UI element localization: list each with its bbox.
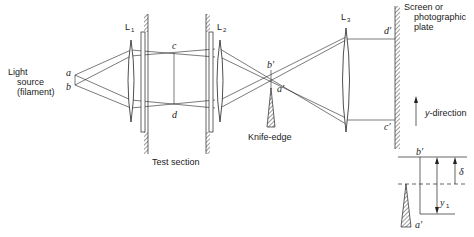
svg-text:b′: b′: [416, 146, 424, 157]
test-section-window-left: [141, 14, 148, 154]
point-b-prime-label: b′: [267, 59, 275, 70]
point-b-label: b: [66, 81, 71, 92]
schlieren-diagram: Light source (filament) a b L 1 L 2 L 3 …: [0, 0, 474, 237]
test-section-window-right: [206, 14, 213, 154]
knife-edge-label: Knife-edge: [248, 132, 292, 142]
point-d-prime-label: d′: [384, 25, 392, 36]
lens-l2: [217, 40, 223, 122]
delta-label: δ: [459, 166, 464, 177]
lens-l3-label: L 3: [341, 12, 351, 23]
y-direction-arrow: [414, 96, 418, 126]
svg-text:1: 1: [131, 27, 135, 33]
svg-text:L: L: [341, 12, 346, 22]
svg-text:L: L: [217, 22, 222, 32]
point-a-label: a: [66, 67, 71, 78]
lens-l2-label: L 2: [217, 22, 227, 33]
lens-l1: [128, 40, 134, 122]
svg-text:(filament): (filament): [17, 87, 55, 97]
y-direction-label: y-direction: [424, 108, 467, 118]
lens-l1-label: L 1: [125, 22, 135, 33]
svg-text:photographic: photographic: [414, 12, 467, 22]
point-a-prime-label: a′: [277, 83, 285, 94]
svg-text:1: 1: [446, 203, 450, 209]
test-section-label: Test section: [152, 157, 200, 167]
point-c-prime-label: c′: [384, 121, 391, 132]
svg-text:a′: a′: [415, 219, 423, 230]
y1-label: y: [439, 197, 445, 208]
lens-l3: [343, 28, 350, 132]
point-d-label: d: [172, 109, 178, 120]
knife-edge: [267, 88, 275, 127]
svg-text:source: source: [17, 77, 44, 87]
svg-text:plate: plate: [414, 22, 434, 32]
light-source-label: Light: [8, 67, 28, 77]
svg-text:3: 3: [347, 17, 351, 23]
svg-text:L: L: [125, 22, 130, 32]
svg-text:2: 2: [223, 27, 227, 33]
point-c-label: c: [172, 40, 177, 51]
screen-plate: [395, 6, 400, 149]
displacement-inset: b′ a′ δ y 1: [398, 146, 467, 230]
inset-knife-edge: [401, 184, 411, 227]
screen-label: Screen or: [404, 2, 443, 12]
